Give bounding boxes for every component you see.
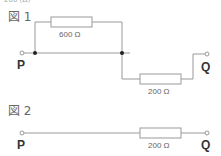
junction-node xyxy=(33,51,37,55)
junction-node xyxy=(120,51,124,55)
circuit-diagram xyxy=(0,0,221,156)
terminal-p-fig2: P xyxy=(17,138,25,152)
terminal-q-fig2: Q xyxy=(201,138,210,152)
resistor-200-label-fig1: 200 Ω xyxy=(148,87,170,96)
resistor-600-label: 600 Ω xyxy=(59,30,81,39)
resistor-200-label-fig2: 200 Ω xyxy=(148,141,170,150)
terminal-p-fig1: P xyxy=(17,58,25,72)
terminal-q-fig1: Q xyxy=(201,60,210,74)
